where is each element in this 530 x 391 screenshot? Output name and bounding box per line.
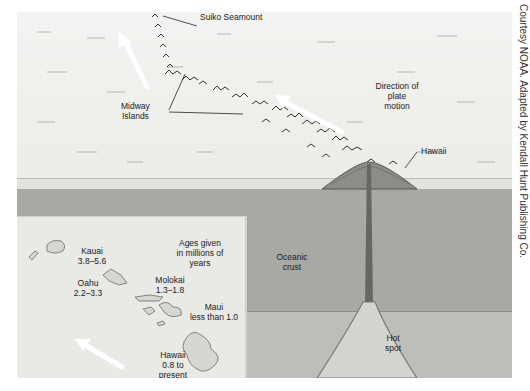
ages-line2: in millions of [165,248,235,258]
midway-label-line1: Midway [121,101,150,111]
kauai-label: Kauai 3.8–5.6 [72,246,112,266]
maui-age: less than 1.0 [184,312,244,322]
molokai-island [135,295,163,301]
maui-island [159,302,181,316]
direction-of-plate-motion-label: Direction of plate motion [365,81,429,111]
hawaii-volcano-label: Hawaii [421,146,447,156]
niihau-island [29,251,38,260]
hot-spot-label: Hot spot [378,333,408,353]
ages-line3: years [165,258,235,268]
oahu-name: Oahu [68,278,108,288]
seamount-chain [152,14,397,164]
midway-label-line2: Islands [121,111,150,121]
kauai-name: Kauai [72,246,112,256]
molokai-name: Molokai [145,275,195,285]
hawaii-inset-label: Hawaii 0.8 to present [153,350,193,378]
direction-line1: Direction of [365,81,429,91]
plate-motion-arrows [118,32,342,132]
direction-line2: plate [365,91,429,101]
ages-note: Ages given in millions of years [165,238,235,268]
hawaii-name: Hawaii [153,350,193,360]
suiko-seamount-label: Suiko Seamount [200,12,262,22]
maui-label: Maui less than 1.0 [184,302,244,322]
oceanic-line1: Oceanic [272,252,312,262]
maui-name: Maui [184,302,244,312]
kauai-age: 3.8–5.6 [72,256,112,266]
hawaii-age-line2: present [153,370,193,378]
oceanic-line2: crust [272,262,312,272]
oahu-label: Oahu 2.2–3.3 [68,278,108,298]
oahu-age: 2.2–3.3 [68,288,108,298]
molokai-age: 1.3–1.8 [145,285,195,295]
direction-line3: motion [365,101,429,111]
molokai-label: Molokai 1.3–1.8 [145,275,195,295]
oceanic-crust-label: Oceanic crust [272,252,312,272]
hotspot-line1: Hot [378,333,408,343]
ages-line1: Ages given [165,238,235,248]
kauai-island [47,241,65,254]
inset-motion-arrow [75,339,122,367]
kahoolawe-island [157,321,165,326]
hotspot-line2: spot [378,343,408,353]
image-credit: Courtesy NOAA. Adapted by Kendall Hunt P… [514,4,530,384]
midway-islands-label: Midway Islands [121,101,150,121]
hawaii-hotspot-diagram: Suiko Seamount Midway Islands Direction … [17,12,512,378]
lanai-island [143,307,155,315]
hawaii-age-line1: 0.8 to [153,360,193,370]
credit-text: Courtesy NOAA. Adapted by Kendall Hunt P… [518,4,529,258]
